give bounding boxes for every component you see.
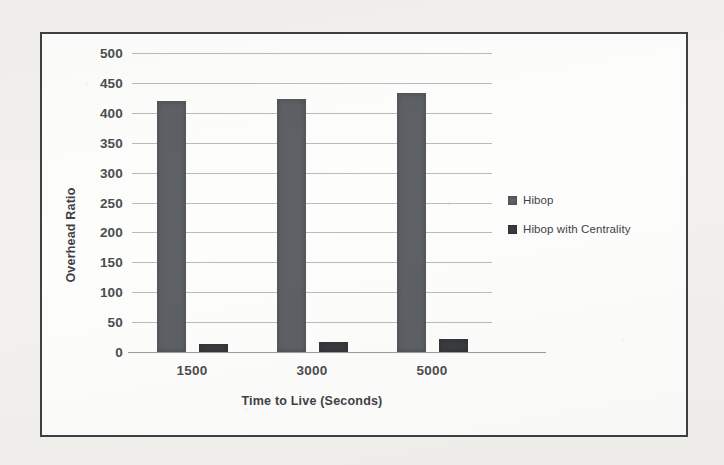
- bar: [157, 101, 186, 352]
- y-axis-tick-label: 200: [100, 225, 123, 240]
- legend-label: Hibop: [523, 194, 554, 206]
- bar: [199, 344, 228, 352]
- bar: [319, 342, 348, 352]
- y-axis-tick-label: 300: [100, 165, 123, 180]
- bar-group: [132, 53, 252, 352]
- bar: [439, 339, 468, 352]
- plot-area: 500450400350300250200150100500 150030005…: [132, 53, 492, 352]
- bar: [277, 99, 306, 352]
- y-axis-title-label: Overhead Ratio: [64, 187, 78, 282]
- bar-group: [372, 53, 492, 352]
- chart-legend: HibopHibop with Centrality: [508, 194, 631, 235]
- x-axis-tick-label: 1500: [176, 363, 207, 378]
- x-axis-line: [128, 352, 546, 353]
- y-axis-tick-label: 150: [100, 255, 123, 270]
- y-axis-tick-label: 350: [100, 135, 123, 150]
- y-axis-tick-label: 100: [100, 285, 123, 300]
- y-axis-tick-label: 500: [100, 46, 123, 61]
- legend-item: Hibop: [508, 194, 631, 206]
- x-axis-title: Time to Live (Seconds): [132, 394, 492, 408]
- bar: [397, 93, 426, 352]
- y-axis-tick-label: 450: [100, 75, 123, 90]
- legend-label: Hibop with Centrality: [523, 223, 631, 235]
- x-axis-tick-label: 3000: [296, 363, 327, 378]
- y-axis-tick-label: 0: [115, 345, 123, 360]
- legend-swatch-icon: [508, 196, 517, 205]
- y-axis-title: Overhead Ratio: [62, 85, 80, 384]
- chart-frame: Overhead Ratio 5004504003503002502001501…: [40, 32, 688, 437]
- legend-swatch-icon: [508, 225, 517, 234]
- bar-group: [252, 53, 372, 352]
- x-axis-tick-label: 5000: [416, 363, 447, 378]
- y-axis-tick-label: 250: [100, 195, 123, 210]
- y-axis-tick-label: 50: [108, 315, 123, 330]
- y-axis-tick-label: 400: [100, 105, 123, 120]
- legend-item: Hibop with Centrality: [508, 223, 631, 235]
